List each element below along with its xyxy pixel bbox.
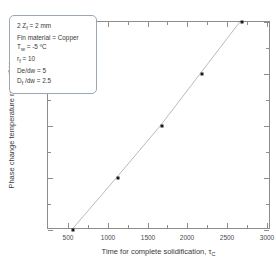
x-axis-title-subscript: C [211,251,215,257]
axis-minor-tick [266,48,269,49]
data-point-marker [72,229,75,232]
x-axis-title-text: Time for complete solidification, [102,247,209,256]
axis-major-tick [227,22,228,27]
axis-minor-tick [167,22,168,25]
axis-minor-tick [266,204,269,205]
data-point-marker [160,125,163,128]
x-axis-tick-label: 500 [63,234,74,241]
axis-minor-tick [48,204,51,205]
x-axis-tick-label: 3000 [260,234,274,241]
x-axis-tick-label: 2500 [220,234,234,241]
axis-major-tick [187,22,188,27]
x-axis-tick-label: 1000 [101,234,115,241]
note-line-fin-material: Fin material = Copper [17,33,90,42]
note-line-fin-radius: rf = 10 [17,54,90,66]
axis-minor-tick [48,100,51,101]
axis-minor-tick [266,152,269,153]
data-point-marker [240,21,243,24]
axis-minor-tick [167,225,168,228]
axis-major-tick [148,223,149,228]
axis-major-tick [264,230,269,231]
axis-major-tick [264,126,269,127]
axis-major-tick [264,74,269,75]
axis-major-tick [108,223,109,228]
axis-minor-tick [247,22,248,25]
axis-minor-tick [128,225,129,228]
axis-minor-tick [128,22,129,25]
axis-major-tick [48,230,53,231]
note-line-df-dw-ratio: Df /dw = 2.5 [17,76,90,88]
axis-major-tick [108,22,109,27]
axis-minor-tick [48,152,51,153]
axis-minor-tick [247,225,248,228]
axis-minor-tick [88,225,89,228]
trend-line [73,22,239,228]
axis-minor-tick [207,22,208,25]
axis-minor-tick [207,225,208,228]
annotation-box: 2 Zf = 2 mm Fin material = Copper Tw = -… [9,15,97,94]
x-axis-tick-label: 2000 [180,234,194,241]
x-axis-tick-label: 1500 [141,234,155,241]
x-axis-title: Time for complete solidification, τC [47,247,270,257]
note-line-fin-thickness: 2 Zf = 2 mm [17,21,90,33]
axis-minor-tick [266,100,269,101]
axis-major-tick [267,22,268,27]
axis-major-tick [48,178,53,179]
axis-major-tick [187,223,188,228]
data-point-marker [200,73,203,76]
data-point-marker [117,177,120,180]
axis-major-tick [267,223,268,228]
axis-major-tick [227,223,228,228]
axis-major-tick [148,22,149,27]
axis-major-tick [48,126,53,127]
note-line-wall-temperature: Tw = -5 ºC [17,42,90,54]
note-line-de-dw-ratio: De/dw = 5 [17,66,90,75]
axis-major-tick [68,223,69,228]
axis-major-tick [264,178,269,179]
chart-figure: Phase change temperature range [ºC] 0.10… [0,0,276,267]
